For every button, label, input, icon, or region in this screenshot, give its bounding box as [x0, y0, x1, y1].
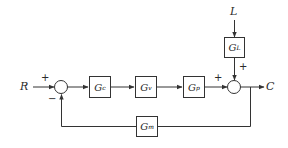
block-gv-symbol: G — [140, 82, 148, 93]
block-gp: Gp — [183, 76, 205, 98]
input-l-label: L — [230, 6, 237, 17]
block-gp-symbol: G — [188, 82, 196, 93]
sum1-plus-sign: + — [41, 73, 49, 83]
summing-junction-2 — [228, 81, 241, 94]
block-gc-subscript: c — [102, 84, 105, 91]
block-gc: Gc — [89, 76, 111, 98]
feedback-path-left — [62, 95, 137, 127]
input-r-label: R — [20, 81, 28, 92]
block-gv-subscript: v — [148, 84, 151, 91]
block-gc-symbol: G — [94, 82, 102, 93]
output-c-label: C — [266, 81, 274, 92]
block-gm: Gm — [136, 116, 158, 137]
block-gm-subscript: m — [148, 123, 154, 130]
block-gv: Gv — [135, 76, 157, 98]
block-gp-subscript: p — [196, 84, 200, 91]
sum1-minus-sign: − — [48, 94, 56, 104]
sum2-plus-sign-left: + — [214, 73, 222, 83]
block-gm-symbol: G — [140, 121, 148, 132]
block-gl: GL — [224, 37, 245, 58]
sum2-plus-sign-top: + — [239, 62, 247, 72]
block-gl-subscript: L — [237, 44, 241, 51]
block-gl-symbol: G — [229, 42, 237, 53]
summing-junction-1 — [55, 81, 68, 94]
